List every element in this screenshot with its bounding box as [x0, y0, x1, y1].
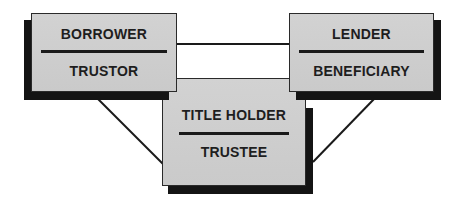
borrower-box: BORROWER TRUSTOR [31, 13, 177, 92]
borrower-primary-label: BORROWER [61, 26, 147, 42]
title-holder-box: TITLE HOLDER TRUSTEE [162, 78, 306, 186]
title-holder-primary-label: TITLE HOLDER [182, 107, 286, 123]
borrower-divider [41, 50, 167, 53]
title-holder-secondary-label: TRUSTEE [201, 144, 268, 160]
lender-divider [299, 50, 424, 53]
borrower-secondary-label: TRUSTOR [70, 63, 139, 79]
lender-primary-label: LENDER [332, 26, 391, 42]
connector-lender-title [313, 98, 375, 162]
connector-borrower-title [98, 99, 163, 164]
lender-secondary-label: BENEFICIARY [313, 63, 410, 79]
lender-box: LENDER BENEFICIARY [289, 13, 434, 92]
title-holder-divider [179, 132, 289, 135]
